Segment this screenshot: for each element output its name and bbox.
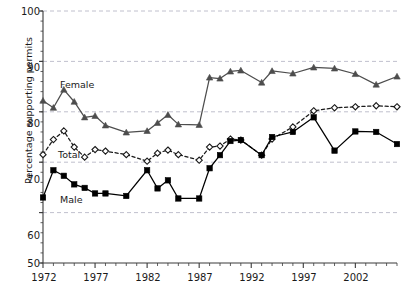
x-tick-label: 2002 [336, 272, 376, 283]
series-label-total: Total [58, 149, 80, 160]
series-label-female: Female [60, 79, 94, 90]
x-tick-label: 1992 [232, 272, 272, 283]
series-label-male: Male [60, 194, 83, 205]
x-tick-label: 1972 [24, 272, 64, 283]
x-tick-label: 1982 [128, 272, 168, 283]
x-tick-label: 1977 [76, 272, 116, 283]
x-tick-label: 1987 [180, 272, 220, 283]
x-tick-label: 1997 [284, 272, 324, 283]
chart-container: 100 90 80 70 60 50 Percentage supporting… [0, 0, 410, 296]
chart-plot-area [0, 0, 410, 296]
